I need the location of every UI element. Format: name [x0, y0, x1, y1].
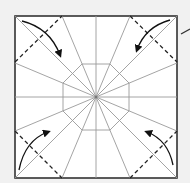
origami-diagram — [0, 0, 190, 183]
center-point — [95, 96, 97, 98]
slash-mark — [181, 29, 190, 34]
